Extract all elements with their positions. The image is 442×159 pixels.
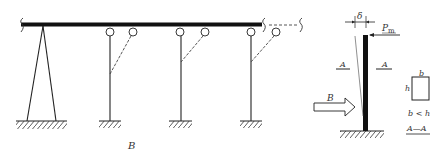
section-a-a: b h b < h A—A	[405, 69, 430, 134]
hinge-circle	[201, 28, 209, 36]
deflected-shape	[355, 36, 363, 116]
column-1	[99, 28, 137, 128]
lateral-load-label: B	[326, 93, 334, 103]
section-mark-right: A	[381, 60, 388, 69]
deflection-label: δ	[357, 11, 362, 21]
cantilever-column	[363, 35, 368, 131]
load-subscript: m	[388, 27, 395, 35]
diagram-canvas: B δ Pm A A B b h b < h A	[0, 0, 442, 159]
section-height-label: h	[405, 84, 410, 93]
continuous-beam	[21, 23, 262, 27]
hinge-circle	[176, 28, 184, 36]
section-condition: b < h	[408, 109, 430, 118]
left-structure: B	[16, 18, 302, 151]
hinge-circle	[272, 28, 280, 36]
hinge-circle	[106, 28, 114, 36]
section-mark-left: A	[339, 60, 346, 69]
beam-break-right-icon	[263, 18, 266, 32]
a-frame-support	[16, 26, 67, 129]
column-2	[169, 28, 209, 128]
column-3	[240, 28, 280, 128]
section-width-label: b	[419, 69, 424, 78]
hinge-circle	[129, 28, 137, 36]
right-structure: δ Pm A A B	[314, 11, 400, 138]
left-figure-caption: B	[127, 140, 135, 151]
hinge-circle	[247, 28, 255, 36]
beam-break-far-icon	[300, 18, 303, 32]
cross-section-rect	[412, 77, 429, 100]
lateral-load-arrow-icon	[314, 98, 355, 116]
dashed-bracing	[251, 36, 274, 62]
dashed-bracing	[110, 36, 131, 74]
dashed-bracing	[181, 36, 203, 62]
section-title: A—A	[406, 124, 427, 133]
